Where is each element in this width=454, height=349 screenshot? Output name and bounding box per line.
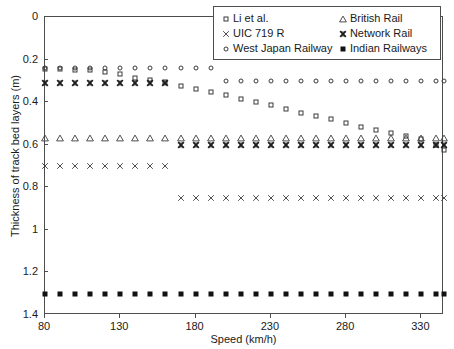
y-tick-label: 1.4 [23, 309, 38, 320]
y-tick-label: 1 [32, 223, 38, 234]
x-tick-label: 330 [411, 320, 429, 332]
data-point [148, 291, 153, 296]
data-point [42, 79, 49, 86]
triangle-marker-icon [336, 11, 350, 25]
data-point [237, 194, 244, 201]
data-point [103, 70, 108, 75]
legend-label: UIC 719 R [233, 27, 284, 39]
data-point [57, 163, 64, 170]
data-point [268, 78, 273, 83]
data-point [117, 163, 124, 170]
data-point [298, 78, 303, 83]
data-point [147, 79, 154, 86]
data-point [253, 100, 258, 105]
data-point [88, 291, 93, 296]
data-point [208, 89, 213, 94]
data-point [88, 66, 93, 71]
data-point [418, 141, 425, 148]
legend-entry-british-rail: British Rail [336, 10, 435, 25]
x-tick-mark [119, 314, 120, 318]
data-point [238, 78, 243, 83]
legend-label: Network Rail [350, 27, 412, 39]
data-point [177, 141, 184, 148]
data-point [73, 66, 78, 71]
data-point [359, 124, 364, 129]
data-point [192, 141, 199, 148]
data-point [419, 78, 424, 83]
chart-legend: Li et al. British Rail UIC 719 R Network… [213, 6, 441, 60]
data-point [43, 291, 48, 296]
x-tick-label: 180 [185, 320, 203, 332]
data-point [343, 141, 350, 148]
data-point [314, 291, 319, 296]
data-point [118, 72, 123, 77]
data-point [267, 194, 274, 201]
legend-entry-li-et-al: Li et al. [219, 10, 336, 25]
legend-entry-west-japan-railway: West Japan Railway [219, 40, 336, 55]
data-point [223, 92, 228, 97]
data-point [344, 78, 349, 83]
data-point [163, 66, 168, 71]
data-point [268, 291, 273, 296]
data-point [374, 291, 379, 296]
data-point [253, 78, 258, 83]
data-point [116, 135, 124, 142]
x-tick-mark [44, 314, 45, 318]
data-point [72, 163, 79, 170]
legend-entry-uic-719-r: UIC 719 R [219, 25, 336, 40]
legend-label: British Rail [350, 12, 403, 24]
data-point [86, 135, 94, 142]
data-point [193, 66, 198, 71]
data-point [193, 87, 198, 92]
data-point [373, 141, 380, 148]
data-point [238, 96, 243, 101]
data-point [267, 141, 274, 148]
data-point [297, 141, 304, 148]
data-point [43, 66, 48, 71]
chart-figure: Thickness of track bed layers (m) 00.20.… [0, 0, 454, 349]
y-tick-label: 0.6 [23, 138, 38, 149]
data-point [102, 79, 109, 86]
data-point [41, 135, 49, 142]
legend-entry-network-rail: Network Rail [336, 25, 435, 40]
data-point [419, 291, 424, 296]
data-point [359, 78, 364, 83]
data-point [329, 291, 334, 296]
data-point [208, 66, 213, 71]
data-point [388, 194, 395, 201]
data-point [343, 194, 350, 201]
data-point [223, 291, 228, 296]
data-point [192, 194, 199, 201]
y-tick-label: 0.8 [23, 181, 38, 192]
data-point [314, 78, 319, 83]
data-point [87, 79, 94, 86]
data-point [358, 141, 365, 148]
square-marker-icon [219, 11, 233, 25]
data-point [282, 141, 289, 148]
data-point [133, 291, 138, 296]
data-point [237, 141, 244, 148]
data-point [132, 79, 139, 86]
data-point [58, 291, 63, 296]
data-point [328, 194, 335, 201]
data-point [222, 194, 229, 201]
data-point [57, 79, 64, 86]
data-point [101, 135, 109, 142]
data-point [388, 141, 395, 148]
data-point [283, 291, 288, 296]
data-point [118, 66, 123, 71]
x-tick-mark [345, 314, 346, 318]
data-point [87, 163, 94, 170]
data-point [433, 194, 440, 201]
legend-row: West Japan Railway Indian Railways [219, 40, 435, 55]
circle-marker-icon [219, 41, 233, 55]
data-point [133, 66, 138, 71]
x-tick-label: 130 [110, 320, 128, 332]
data-point [344, 291, 349, 296]
data-point [148, 66, 153, 71]
data-point [132, 163, 139, 170]
data-point [297, 194, 304, 201]
data-point [222, 141, 229, 148]
data-point [162, 79, 169, 86]
data-point [163, 291, 168, 296]
